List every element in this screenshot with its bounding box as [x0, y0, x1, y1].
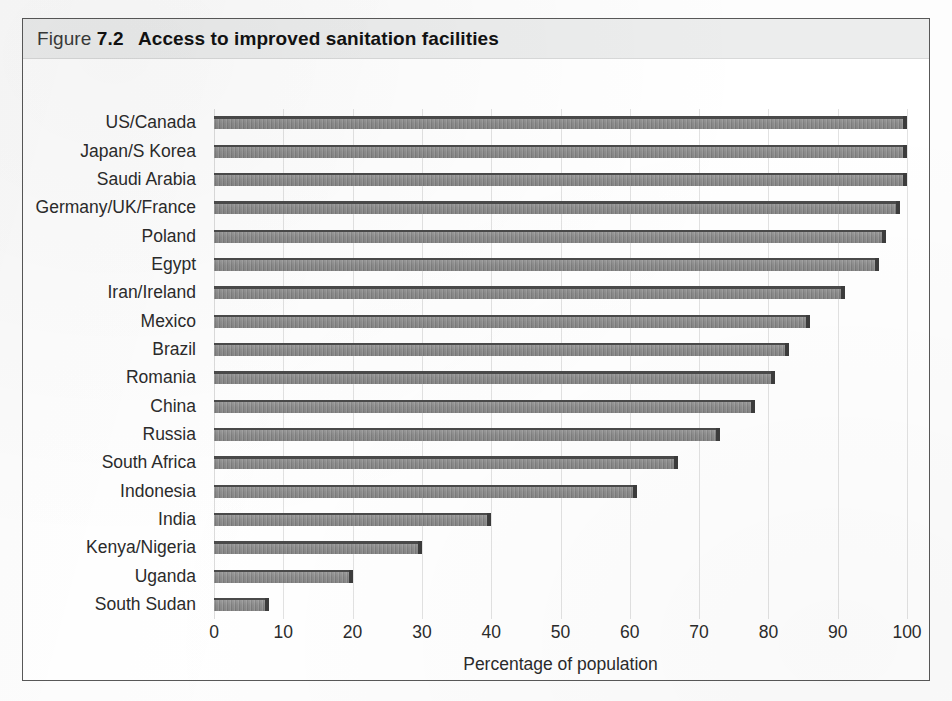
- bar-top-edge: [214, 513, 488, 516]
- figure-caption: Figure 7.2 Access to improved sanitation…: [37, 28, 499, 50]
- bar-top-edge: [214, 230, 883, 233]
- bar-end-cap: [806, 315, 810, 328]
- x-tick-label: 60: [620, 624, 639, 642]
- bar-top-edge: [214, 258, 876, 261]
- bar-end-cap: [882, 230, 886, 243]
- bar-top-edge: [214, 343, 786, 346]
- bar-fill: [214, 373, 772, 384]
- category-label: Mexico: [141, 313, 196, 331]
- bar-top-edge: [214, 145, 904, 148]
- figure-number: 7.2: [97, 28, 124, 49]
- category-label: Russia: [143, 426, 197, 444]
- category-label: Indonesia: [120, 483, 196, 501]
- bar-fill: [214, 317, 807, 328]
- bar-end-cap: [896, 201, 900, 214]
- bar-top-edge: [214, 428, 717, 431]
- bar-fill: [214, 345, 786, 356]
- bar: [214, 145, 907, 158]
- bar-end-cap: [903, 173, 907, 186]
- gridline-100: [907, 109, 908, 619]
- bar: [214, 343, 789, 356]
- bar-top-edge: [214, 456, 675, 459]
- bar-end-cap: [265, 598, 269, 611]
- category-label: Kenya/Nigeria: [86, 539, 196, 557]
- bar-fill: [214, 458, 675, 469]
- bar: [214, 371, 775, 384]
- category-label: Brazil: [152, 341, 196, 359]
- bar-top-edge: [214, 371, 772, 374]
- bar-end-cap: [349, 570, 353, 583]
- bar: [214, 201, 900, 214]
- bar-top-edge: [214, 598, 266, 601]
- figure-page: Figure 7.2 Access to improved sanitation…: [0, 0, 952, 701]
- bar-fill: [214, 260, 876, 271]
- bar-end-cap: [903, 116, 907, 129]
- x-tick-label: 90: [828, 624, 847, 642]
- bar-fill: [214, 572, 350, 583]
- bar-fill: [214, 175, 904, 186]
- bar-top-edge: [214, 286, 842, 289]
- x-tick-label: 70: [689, 624, 708, 642]
- x-tick-label: 20: [343, 624, 362, 642]
- bar-end-cap: [771, 371, 775, 384]
- category-label: Germany/UK/France: [36, 199, 196, 217]
- bar-fill: [214, 118, 904, 129]
- bar: [214, 286, 845, 299]
- bar: [214, 230, 886, 243]
- bar-top-edge: [214, 570, 350, 573]
- bar-end-cap: [716, 428, 720, 441]
- bar: [214, 513, 491, 526]
- category-label: Iran/Ireland: [107, 284, 196, 302]
- bar-fill: [214, 487, 634, 498]
- bar: [214, 541, 422, 554]
- bar-fill: [214, 515, 488, 526]
- bar-fill: [214, 543, 419, 554]
- bar-top-edge: [214, 541, 419, 544]
- bar-fill: [214, 430, 717, 441]
- category-label: Saudi Arabia: [97, 171, 196, 189]
- bar-fill: [214, 600, 266, 611]
- bar-end-cap: [674, 456, 678, 469]
- bar: [214, 598, 269, 611]
- figure-title: Access to improved sanitation facilities: [138, 28, 499, 49]
- bar: [214, 485, 637, 498]
- figure-label-word: Figure: [37, 28, 91, 49]
- x-tick-label: 10: [274, 624, 293, 642]
- bar-fill: [214, 288, 842, 299]
- bar: [214, 173, 907, 186]
- category-label: South Sudan: [95, 596, 196, 614]
- bar-end-cap: [785, 343, 789, 356]
- bar-fill: [214, 147, 904, 158]
- bar-fill: [214, 203, 897, 214]
- figure-caption-band: Figure 7.2 Access to improved sanitation…: [23, 19, 929, 59]
- bar-top-edge: [214, 315, 807, 318]
- bar-top-edge: [214, 116, 904, 119]
- category-label: Uganda: [135, 568, 196, 586]
- category-label: US/Canada: [106, 114, 196, 132]
- bar: [214, 315, 810, 328]
- category-label: India: [158, 511, 196, 529]
- bar: [214, 456, 678, 469]
- plot-area: US/CanadaJapan/S KoreaSaudi ArabiaGerman…: [23, 59, 929, 680]
- category-label: Romania: [126, 369, 196, 387]
- x-tick-label: 30: [412, 624, 431, 642]
- bar: [214, 428, 720, 441]
- category-label: China: [150, 398, 196, 416]
- x-axis-title: Percentage of population: [214, 656, 907, 674]
- bar: [214, 570, 353, 583]
- x-tick-label: 50: [551, 624, 570, 642]
- bar: [214, 258, 879, 271]
- bar-end-cap: [633, 485, 637, 498]
- bar-end-cap: [903, 145, 907, 158]
- figure-frame: Figure 7.2 Access to improved sanitation…: [22, 18, 930, 681]
- bar-top-edge: [214, 485, 634, 488]
- category-label: Poland: [142, 228, 197, 246]
- category-axis-labels: US/CanadaJapan/S KoreaSaudi ArabiaGerman…: [23, 109, 205, 619]
- bar-top-edge: [214, 201, 897, 204]
- bar-end-cap: [875, 258, 879, 271]
- x-tick-label: 40: [481, 624, 500, 642]
- bar-end-cap: [751, 400, 755, 413]
- x-tick-label: 0: [209, 624, 219, 642]
- bar-top-edge: [214, 173, 904, 176]
- category-label: Japan/S Korea: [80, 143, 196, 161]
